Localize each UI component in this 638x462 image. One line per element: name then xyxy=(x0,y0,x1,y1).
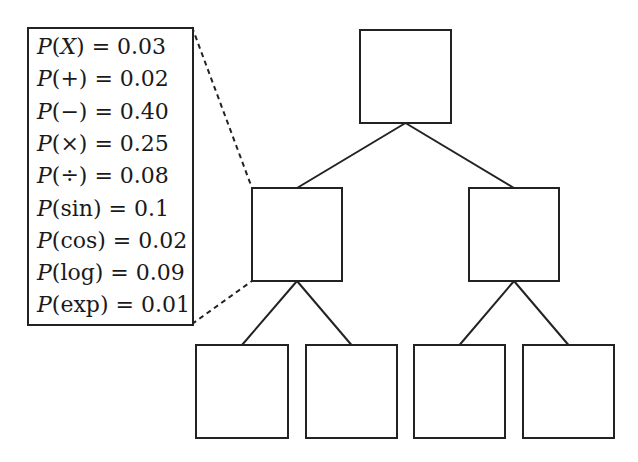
node-root xyxy=(360,30,451,123)
legend-entry: P(sin) = 0.1 xyxy=(37,193,169,225)
edge-mid-left-leaf-2 xyxy=(297,281,352,345)
edge-mid-left-leaf-1 xyxy=(242,281,297,345)
callout-line-bottom xyxy=(192,281,252,324)
node-leaf-2 xyxy=(306,345,397,438)
legend-entry: P(exp) = 0.01 xyxy=(37,289,190,321)
tree-nodes xyxy=(196,30,614,438)
probability-legend: P(X) = 0.03P(+) = 0.02P(−) = 0.40P(×) = … xyxy=(27,27,194,326)
edge-root-mid-right xyxy=(406,123,515,188)
node-mid-left xyxy=(252,188,342,281)
legend-entry: P(cos) = 0.02 xyxy=(37,225,187,257)
legend-entry: P(+) = 0.02 xyxy=(37,63,169,95)
edge-mid-right-leaf-3 xyxy=(460,281,515,345)
edge-root-mid-left xyxy=(297,123,406,188)
node-leaf-4 xyxy=(523,345,614,438)
edge-mid-right-leaf-4 xyxy=(514,281,569,345)
legend-entry: P(log) = 0.09 xyxy=(37,257,185,289)
node-leaf-3 xyxy=(414,345,505,438)
legend-entry: P(×) = 0.25 xyxy=(37,128,169,160)
node-leaf-1 xyxy=(196,345,288,438)
legend-entry: P(÷) = 0.08 xyxy=(37,160,169,192)
node-mid-right xyxy=(469,188,559,281)
legend-entry: P(X) = 0.03 xyxy=(37,31,166,63)
callout-line-top xyxy=(192,27,252,188)
legend-entry: P(−) = 0.40 xyxy=(37,96,169,128)
